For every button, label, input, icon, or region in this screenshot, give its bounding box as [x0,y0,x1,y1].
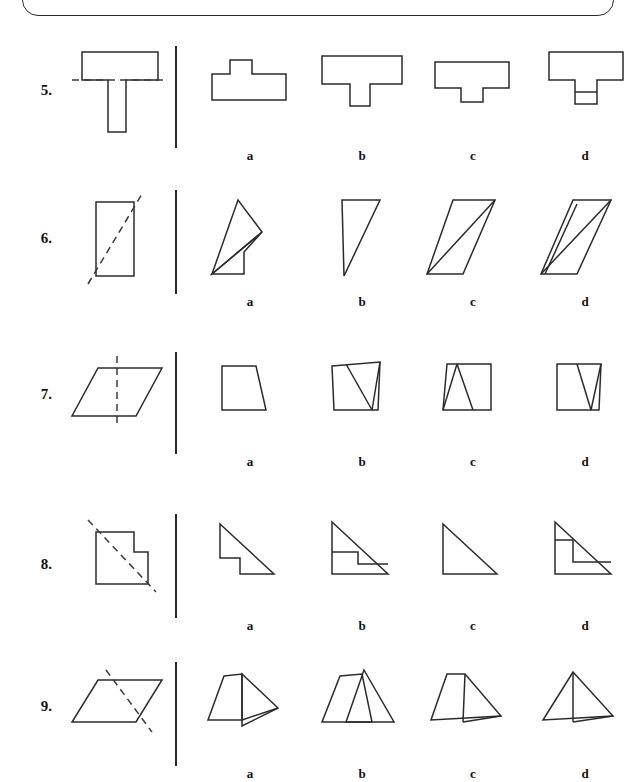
option-c-svg [417,512,529,622]
row-divider [175,662,177,766]
option-label-d: d [529,454,637,470]
option-figure-9a[interactable] [194,660,306,770]
option-figure-7b[interactable] [306,348,418,458]
option-label-b: b [306,766,418,782]
option-d-svg [529,512,637,622]
question-number: 7. [18,386,52,403]
option-label-c: c [417,454,529,470]
option-figure-9b[interactable] [306,660,418,770]
notched-rectangle-svg [56,512,174,622]
row-divider [175,352,177,454]
option-b-svg [306,188,418,298]
option-label-b: b [306,148,418,164]
option-figure-5b[interactable] [306,42,418,152]
option-figure-6c[interactable] [417,188,529,298]
option-d-svg [529,42,637,152]
option-c-svg [417,660,529,770]
option-a-svg [194,348,306,458]
option-label-a: a [194,148,306,164]
option-a-svg [194,660,306,770]
option-label-d: d [529,294,637,310]
rectangle-diagonal-svg [56,188,174,298]
option-label-c: c [417,294,529,310]
option-label-d: d [529,766,637,782]
option-figure-6d[interactable] [529,188,637,298]
parallelogram-vertical-svg [56,348,174,458]
option-c-svg [417,348,529,458]
question-row-6: 6. a b c d [0,188,637,338]
section-box-border [22,0,614,16]
option-label-b: b [306,294,418,310]
option-b-svg [306,42,418,152]
question-number: 8. [18,556,52,573]
option-label-a: a [194,454,306,470]
question-row-7: 7. a b c d [0,348,637,498]
question-number: 9. [18,698,52,715]
question-row-5: 5. a b c d [0,42,637,192]
option-figure-7a[interactable] [194,348,306,458]
option-figure-7c[interactable] [417,348,529,458]
option-label-b: b [306,618,418,634]
option-label-a: a [194,618,306,634]
option-figure-5d[interactable] [529,42,637,152]
option-d-svg [529,348,637,458]
prompt-figure-9 [56,660,174,770]
option-figure-8c[interactable] [417,512,529,622]
option-label-c: c [417,148,529,164]
option-figure-7d[interactable] [529,348,637,458]
option-figure-6a[interactable] [194,188,306,298]
option-figure-9d[interactable] [529,660,637,770]
question-row-9: 9. a b c d [0,660,637,782]
option-a-svg [194,42,306,152]
row-divider [175,514,177,618]
row-divider [175,46,177,148]
option-figure-6b[interactable] [306,188,418,298]
fold-line-icon [88,520,156,592]
question-number: 6. [18,230,52,247]
option-label-c: c [417,618,529,634]
option-figure-8a[interactable] [194,512,306,622]
option-figure-5a[interactable] [194,42,306,152]
option-label-d: d [529,148,637,164]
option-label-d: d [529,618,637,634]
option-label-a: a [194,294,306,310]
option-a-svg [194,188,306,298]
option-figure-9c[interactable] [417,660,529,770]
row-divider [175,190,177,294]
option-d-svg [529,660,637,770]
option-label-c: c [417,766,529,782]
option-label-b: b [306,454,418,470]
option-figure-5c[interactable] [417,42,529,152]
prompt-figure-5 [56,42,174,152]
option-label-a: a [194,766,306,782]
prompt-figure-7 [56,348,174,458]
parallelogram-diagonal-svg [56,660,174,770]
prompt-figure-8 [56,512,174,622]
option-b-svg [306,512,418,622]
prompt-figure-6 [56,188,174,298]
option-c-svg [417,188,529,298]
option-c-svg [417,42,529,152]
question-row-8: 8. a b c d [0,512,637,662]
option-b-svg [306,348,418,458]
question-number: 5. [18,82,52,99]
option-a-svg [194,512,306,622]
option-figure-8d[interactable] [529,512,637,622]
t-shape-svg [56,42,174,152]
option-b-svg [306,660,418,770]
option-figure-8b[interactable] [306,512,418,622]
option-d-svg [529,188,637,298]
